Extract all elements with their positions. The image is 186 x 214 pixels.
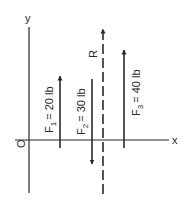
force-diagram: y x O F1= 20 lb F2= 30 lb R F3= 40 lb bbox=[0, 0, 186, 214]
origin-label: O bbox=[15, 139, 27, 148]
resultant-label: R bbox=[87, 50, 99, 58]
force-f2-label: F2= 30 lb bbox=[75, 88, 90, 135]
force-f3-label: F3= 40 lb bbox=[130, 69, 145, 116]
y-axis-label: y bbox=[25, 12, 31, 24]
force-f1-label: F1= 20 lb bbox=[43, 86, 58, 133]
x-axis-label: x bbox=[172, 134, 178, 146]
